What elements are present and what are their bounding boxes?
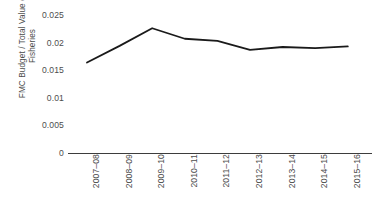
data-series-line bbox=[87, 28, 348, 62]
y-tick-label: 0.005 bbox=[22, 120, 64, 130]
x-tick-label: 2009–10 bbox=[156, 154, 166, 214]
x-tick-label: 2007–08 bbox=[91, 154, 101, 214]
x-tick-label: 2010–11 bbox=[189, 154, 199, 214]
x-tick-label: 2015–16 bbox=[352, 154, 362, 214]
y-axis-tick-labels: 00.0050.010.0150.020.025 bbox=[18, 0, 64, 216]
x-tick-label: 2008–09 bbox=[124, 154, 134, 214]
x-tick-label: 2012–13 bbox=[254, 154, 264, 214]
y-tick-label: 0.01 bbox=[22, 93, 64, 103]
x-tick-label: 2014–15 bbox=[319, 154, 329, 214]
y-tick-label: 0.015 bbox=[22, 65, 64, 75]
data-line-svg bbox=[68, 8, 372, 153]
x-tick-label: 2011–12 bbox=[221, 154, 231, 214]
x-tick-label: 2013–14 bbox=[287, 154, 297, 214]
plot-area bbox=[68, 8, 372, 153]
y-tick-label: 0 bbox=[22, 148, 64, 158]
line-chart: FMC Budget / Total Value of Fisheries 00… bbox=[0, 0, 376, 216]
y-tick-label: 0.025 bbox=[22, 10, 64, 20]
y-tick-label: 0.02 bbox=[22, 38, 64, 48]
